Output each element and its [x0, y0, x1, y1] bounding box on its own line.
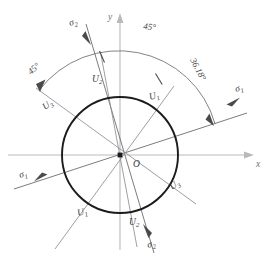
origin-point	[118, 153, 123, 158]
origin-label: O	[133, 159, 140, 169]
label-u2-lower: U2	[129, 217, 140, 228]
arc-end-arrowhead-sigma1	[206, 114, 215, 127]
label-sigma1-left: σ1	[18, 168, 29, 181]
sigma1-positive-arrowhead	[227, 98, 241, 107]
angle-label-36-18: 36.18°	[188, 55, 209, 82]
label-u1-lower: U1	[76, 206, 89, 220]
angle-label-45-left: 45°	[26, 60, 42, 76]
y-axis-label: y	[107, 12, 113, 22]
angle-label-45-right: 45°	[143, 21, 157, 32]
arc-end-arrowhead-u3	[36, 80, 46, 93]
sigma2-positive-arrowhead	[82, 31, 91, 45]
label-u3-lower: U3	[168, 177, 183, 193]
arc-tick-u1	[156, 74, 163, 85]
x-axis-arrowhead	[244, 152, 254, 159]
label-u3-upper: U3	[40, 97, 55, 113]
u-direction-lines	[36, 55, 196, 249]
y-axis-arrowhead	[117, 13, 124, 23]
sigma2-negative-arrowhead	[143, 224, 152, 238]
label-sigma1-right: σ1	[234, 82, 245, 95]
label-sigma2-top: σ2	[68, 16, 80, 29]
x-axis-label: x	[255, 159, 261, 169]
stress-direction-diagram: σ2 σ2 σ1 σ1 U1 U1 U2 U2	[0, 0, 274, 265]
angle-labels: 36.18° 45° 45°	[26, 21, 209, 82]
label-u1-upper: U1	[148, 90, 161, 104]
label-sigma2-bottom: σ2	[146, 238, 157, 251]
angle-measurement-arc	[36, 51, 215, 126]
